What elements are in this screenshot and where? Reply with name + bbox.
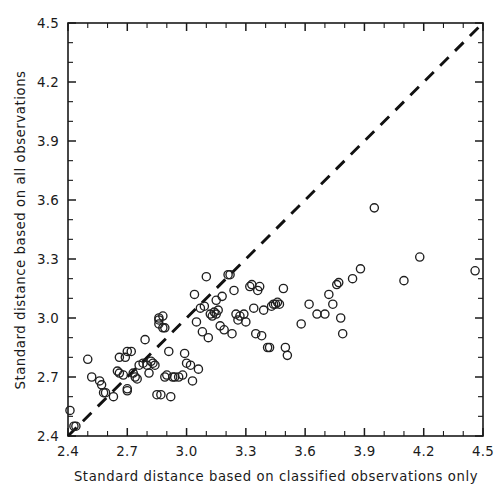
data-point [339, 330, 347, 338]
data-point [337, 314, 345, 322]
y-axis-label: Standard distance based on all observati… [13, 70, 28, 389]
y-tick-label: 4.2 [37, 75, 59, 90]
data-point [329, 300, 337, 308]
data-point [356, 265, 364, 273]
y-tick-label: 4.5 [37, 16, 59, 31]
y-tick-label: 3.6 [37, 193, 59, 208]
data-point [66, 406, 74, 414]
y-tick-label: 3.9 [37, 134, 59, 149]
data-point [333, 280, 341, 288]
x-tick-label: 3.3 [235, 444, 257, 459]
data-point [188, 377, 196, 385]
x-axis-tick-labels: 2.42.73.03.33.63.94.24.5 [57, 444, 494, 459]
data-point [416, 253, 424, 261]
y-tick-label: 3.0 [37, 311, 59, 326]
x-axis-minor-ticks [88, 23, 463, 436]
y-tick-label: 2.7 [37, 370, 59, 385]
data-point [167, 393, 175, 401]
data-point [133, 375, 141, 383]
x-tick-label: 4.2 [413, 444, 435, 459]
data-point [190, 290, 198, 298]
data-point [109, 393, 117, 401]
data-point [141, 336, 149, 344]
data-point [335, 279, 343, 287]
data-point [305, 300, 313, 308]
data-point [181, 349, 189, 357]
data-point [161, 373, 169, 381]
chart-canvas: 2.42.73.03.33.63.94.24.5 2.42.73.03.33.6… [0, 0, 503, 497]
x-tick-label: 2.4 [57, 444, 79, 459]
x-tick-label: 2.7 [116, 444, 138, 459]
data-point [321, 310, 329, 318]
data-point [113, 367, 121, 375]
x-tick-label: 4.5 [472, 444, 494, 459]
x-tick-label: 3.0 [176, 444, 198, 459]
y-tick-label: 2.4 [37, 429, 59, 444]
scatter-points [66, 204, 479, 431]
data-point [260, 306, 268, 314]
data-point [165, 347, 173, 355]
x-axis-label: Standard distance based on classified ob… [74, 469, 478, 484]
data-point [279, 284, 287, 292]
data-point [145, 369, 153, 377]
data-point [325, 290, 333, 298]
data-point [84, 355, 92, 363]
data-point [246, 282, 254, 290]
data-point [281, 343, 289, 351]
data-point [400, 277, 408, 285]
data-point [218, 292, 226, 300]
data-point [212, 296, 220, 304]
data-point [313, 310, 321, 318]
data-point [230, 286, 238, 294]
y-tick-label: 3.3 [37, 252, 59, 267]
data-point [202, 273, 210, 281]
y-axis-minor-ticks [68, 43, 483, 417]
data-point [228, 330, 236, 338]
data-point [242, 318, 250, 326]
identity-reference-line [68, 23, 483, 436]
x-tick-label: 3.6 [294, 444, 316, 459]
x-tick-label: 3.9 [353, 444, 375, 459]
data-point [88, 373, 96, 381]
data-point [204, 334, 212, 342]
data-point [471, 267, 479, 275]
data-point [370, 204, 378, 212]
data-point [348, 275, 356, 283]
y-axis-tick-labels: 2.42.73.03.33.63.94.24.5 [37, 16, 59, 444]
data-point [283, 351, 291, 359]
data-point [297, 320, 305, 328]
data-point [250, 304, 258, 312]
data-point [192, 318, 200, 326]
data-point [194, 365, 202, 373]
scatter-plot-figure: 2.42.73.03.33.63.94.24.5 2.42.73.03.33.6… [0, 0, 503, 497]
